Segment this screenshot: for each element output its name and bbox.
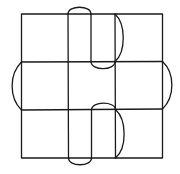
arc-top-right (115, 14, 123, 62)
arc-bottom (69, 158, 92, 165)
puzzle-figure (0, 0, 180, 174)
arc-top (68, 7, 91, 14)
arc-right (163, 62, 172, 110)
grid-line-vertical-1 (68, 14, 69, 158)
arc-bottom-right (116, 110, 125, 159)
arc-left (12, 62, 21, 110)
grid-line-horizontal-1 (22, 62, 163, 63)
grid-line-vertical-2 (115, 14, 116, 158)
arc-top-middle-bottom (91, 62, 115, 69)
